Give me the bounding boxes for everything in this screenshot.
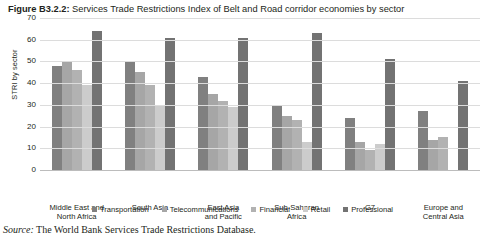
legend-item: Financial	[251, 205, 289, 214]
gridline	[40, 18, 480, 19]
bar-group	[113, 18, 186, 170]
bar	[458, 81, 468, 170]
figure-title: Figure B3.2.2: Services Trade Restrictio…	[8, 3, 480, 15]
figure-title-text: Services Trade Restrictions Index of Bel…	[69, 4, 404, 14]
y-axis-tick-labels: 010203040506070	[14, 18, 36, 170]
bar	[62, 61, 72, 170]
source-text: The World Bank Services Trade Restrictio…	[34, 224, 256, 235]
legend-label: Financial	[259, 205, 289, 214]
bar	[52, 66, 62, 170]
gridline	[40, 83, 480, 84]
figure-container: Figure B3.2.2: Services Trade Restrictio…	[0, 0, 485, 245]
legend-swatch-icon	[92, 207, 97, 212]
bar	[418, 111, 428, 170]
y-tick-label: 60	[14, 36, 36, 44]
bar	[228, 107, 238, 170]
bar	[72, 70, 82, 170]
legend-label: Professional	[351, 205, 393, 214]
y-tick-label: 70	[14, 14, 36, 22]
bar	[135, 72, 145, 170]
bar	[145, 85, 155, 170]
bar	[365, 150, 375, 170]
y-tick-label: 10	[14, 144, 36, 152]
gridline	[40, 148, 480, 149]
legend-item: Transportation	[92, 205, 149, 214]
gridline	[40, 61, 480, 62]
bar	[302, 142, 312, 170]
bar	[238, 38, 248, 170]
legend-swatch-icon	[303, 207, 308, 212]
chart-legend: TransportationTelecommunicationsFinancia…	[0, 205, 485, 214]
legend-item: Retail	[303, 205, 330, 214]
legend-item: Professional	[343, 205, 393, 214]
legend-swatch-icon	[251, 207, 256, 212]
bar	[438, 137, 448, 170]
bar	[312, 33, 322, 170]
y-tick-label: 50	[14, 57, 36, 65]
gridline	[40, 127, 480, 128]
plot-grid	[40, 18, 480, 171]
bar	[165, 38, 175, 170]
bar-group	[333, 18, 406, 170]
gridline	[40, 40, 480, 41]
bar	[272, 105, 282, 170]
y-tick-label: 30	[14, 101, 36, 109]
y-tick-label: 0	[14, 166, 36, 174]
legend-item: Telecommunications	[162, 205, 239, 214]
bar	[218, 101, 228, 170]
y-tick-label: 20	[14, 123, 36, 131]
figure-number: Figure B3.2.2:	[8, 4, 69, 14]
bar	[355, 142, 365, 170]
chart-plot-area: STRI by sector 010203040506070 Middle Ea…	[0, 18, 485, 186]
bar	[282, 116, 292, 170]
legend-label: Retail	[311, 205, 330, 214]
gridline	[40, 105, 480, 106]
legend-swatch-icon	[162, 207, 167, 212]
bar-group	[187, 18, 260, 170]
bar	[198, 77, 208, 170]
bar-group	[40, 18, 113, 170]
legend-swatch-icon	[343, 207, 348, 212]
bar	[125, 61, 135, 170]
bar	[385, 59, 395, 170]
bar-group	[260, 18, 333, 170]
bar-group	[407, 18, 480, 170]
source-note: Source: The World Bank Services Trade Re…	[3, 224, 256, 236]
y-tick-label: 40	[14, 79, 36, 87]
bar	[155, 105, 165, 170]
legend-label: Transportation	[100, 205, 149, 214]
bar	[428, 140, 438, 170]
legend-label: Telecommunications	[170, 205, 239, 214]
source-label: Source:	[3, 224, 34, 235]
bars-layer	[40, 18, 480, 170]
bar	[82, 85, 92, 170]
